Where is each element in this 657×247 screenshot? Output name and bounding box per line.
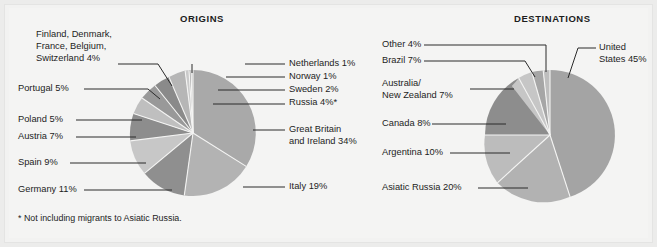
label-nordic-group-line1: Finland, Denmark, — [36, 29, 112, 40]
origins-title: ORIGINS — [180, 13, 224, 24]
label-united-states-line1: United — [599, 42, 626, 53]
label-united-states-line2: States 45% — [599, 54, 647, 65]
label-great-britain-line2: and Ireland 34% — [289, 136, 357, 147]
label-poland: Poland 5% — [18, 114, 63, 125]
label-argentina: Argentina 10% — [382, 147, 443, 158]
label-netherlands: Netherlands 1% — [289, 58, 355, 69]
destinations-pie — [424, 45, 615, 202]
label-canada: Canada 8% — [382, 118, 431, 129]
label-italy: Italy 19% — [289, 181, 327, 192]
label-portugal: Portugal 5% — [18, 83, 69, 94]
label-great-britain-line1: Great Britain — [289, 124, 341, 135]
label-nordic-group-line2: France, Belgium, — [36, 41, 106, 52]
destinations-title: DESTINATIONS — [514, 13, 591, 24]
pie-chart-figure: ORIGINS DESTINATIONS Finland, Denmark, F… — [0, 0, 657, 247]
label-russia: Russia 4%* — [289, 97, 337, 108]
label-germany: Germany 11% — [18, 184, 77, 195]
origins-pie — [70, 64, 285, 196]
label-other: Other 4% — [382, 39, 421, 50]
label-norway: Norway 1% — [289, 71, 337, 82]
label-australia-nz-line2: New Zealand 7% — [382, 90, 453, 101]
footnote-asiatic-russia: * Not including migrants to Asiatic Russ… — [18, 213, 182, 223]
label-austria: Austria 7% — [18, 131, 63, 142]
label-brazil: Brazil 7% — [382, 55, 421, 66]
label-nordic-group-line3: Switzerland 4% — [36, 53, 100, 64]
label-spain: Spain 9% — [18, 157, 58, 168]
label-asiatic-russia: Asiatic Russia 20% — [382, 182, 462, 193]
label-sweden: Sweden 2% — [289, 84, 339, 95]
label-australia-nz-line1: Australia/ — [382, 78, 421, 89]
